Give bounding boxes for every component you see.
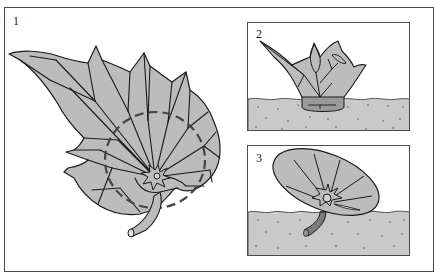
panel-2-label: 2 <box>256 28 262 40</box>
panel-3 <box>247 145 410 256</box>
panel-3-label: 3 <box>256 152 262 164</box>
upright-leaf-cutting-illustration <box>248 23 410 131</box>
leaf-disc-cutting-illustration <box>248 146 410 256</box>
panel-1-label: 1 <box>13 15 19 27</box>
panel-2 <box>247 22 410 131</box>
soil <box>248 211 410 256</box>
